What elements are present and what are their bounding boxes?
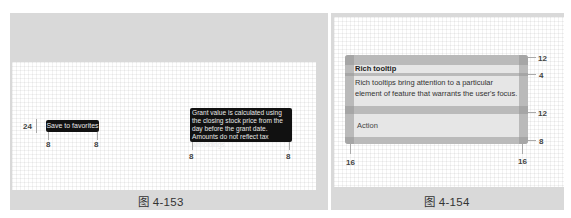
height-spec: 24 (23, 122, 32, 131)
spacing-title-body-spec: 4 (539, 71, 543, 80)
padding-right-spec: 8 (94, 140, 98, 149)
rich-tooltip-title: Rich tooltip (355, 64, 396, 73)
spec-line (528, 140, 536, 141)
padding-left-spec: 8 (46, 140, 50, 149)
multiline-tooltip: Grant value is calculated using the clos… (190, 108, 292, 142)
spacing-band (345, 106, 528, 114)
spec-line (528, 57, 536, 58)
padding-right-spec: 16 (518, 157, 527, 166)
plain-tooltip: Save to favorites (46, 120, 99, 132)
padding-left-spec: 16 (346, 158, 355, 167)
rich-tooltip-action[interactable]: Action (357, 121, 378, 130)
spacing-band (345, 73, 528, 76)
figure-caption: 图 4-154 (424, 193, 470, 209)
padding-right-spec: 8 (286, 152, 290, 161)
spacing-band (519, 55, 528, 144)
spacing-top-spec: 12 (538, 54, 547, 63)
padding-marker (48, 132, 49, 140)
spec-line (528, 74, 536, 75)
plain-tooltip-label: Save to favorites (46, 122, 98, 129)
padding-marker (522, 144, 523, 154)
spacing-band (345, 137, 528, 144)
spacing-bottom-spec: 8 (539, 137, 543, 146)
figure-caption: 图 4-153 (138, 193, 184, 209)
spec-line (528, 112, 536, 113)
padding-marker (97, 132, 98, 140)
height-marker (36, 119, 37, 133)
padding-marker (192, 142, 193, 150)
rich-tooltip-body: Rich tooltips bring attention to a parti… (355, 77, 519, 99)
spacing-band (345, 55, 354, 144)
padding-marker (350, 144, 351, 154)
rich-tooltip: Rich tooltip Rich tooltips bring attenti… (345, 55, 528, 144)
padding-left-spec: 8 (189, 152, 193, 161)
spacing-body-action-spec: 12 (538, 109, 547, 118)
padding-marker (289, 142, 290, 150)
